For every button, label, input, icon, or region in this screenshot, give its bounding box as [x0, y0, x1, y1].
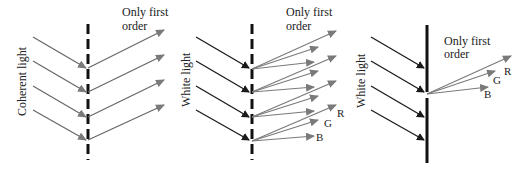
label-g: G	[324, 117, 332, 129]
diffracted-rays	[88, 30, 164, 140]
incident-rays	[371, 37, 424, 140]
incident-rays	[33, 37, 86, 140]
panel-coherent: Only first order Coherent light	[15, 5, 169, 160]
panel-white-solid: Only first order White light R G B	[354, 25, 512, 163]
label-white-light: White light	[179, 52, 193, 107]
label-only-first: Only first	[444, 34, 491, 48]
label-only-first: Only first	[286, 5, 333, 19]
label-order: order	[444, 47, 469, 61]
diffraction-diagram: Only first order Coherent light	[0, 0, 525, 171]
label-b: B	[316, 131, 323, 143]
panel-white-dashed: Only first order White light R G B	[179, 5, 345, 160]
label-coherent-light: Coherent light	[15, 46, 29, 116]
label-g: G	[493, 74, 501, 86]
label-only-first: Only first	[122, 5, 169, 19]
label-order: order	[122, 19, 147, 33]
label-b: B	[484, 88, 491, 100]
incident-rays	[196, 37, 249, 140]
label-order: order	[286, 19, 311, 33]
label-r: R	[337, 107, 345, 119]
label-white-light: White light	[354, 53, 368, 108]
label-r: R	[504, 65, 512, 77]
